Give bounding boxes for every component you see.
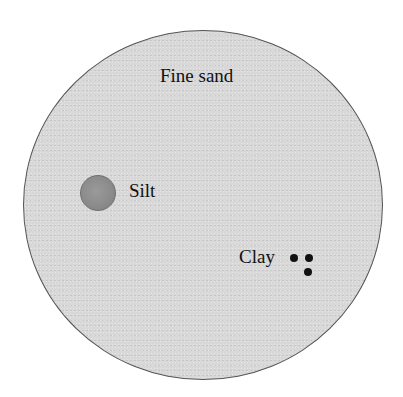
soil-particle-size-diagram: Fine sand Silt Clay <box>0 0 403 397</box>
clay-particle <box>304 268 312 276</box>
silt-particle <box>80 175 116 211</box>
clay-label: Clay <box>239 247 275 266</box>
fine-sand-label: Fine sand <box>160 66 233 85</box>
clay-particle <box>290 254 298 262</box>
silt-label: Silt <box>129 181 155 200</box>
clay-particle <box>305 254 313 262</box>
